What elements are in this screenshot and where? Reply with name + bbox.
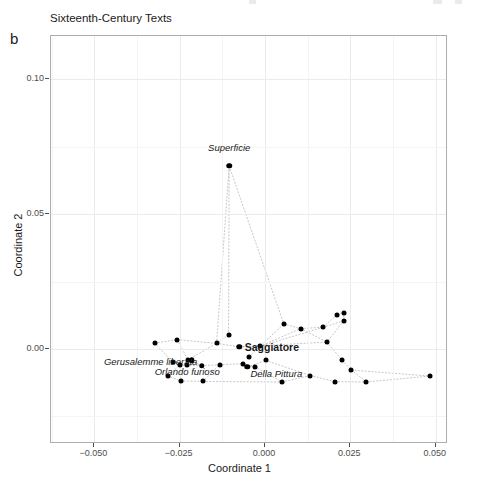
y-tick-label: 0.00 [26,343,44,353]
network-edge [229,166,284,324]
data-point-labeled [245,364,251,370]
data-point [341,318,346,323]
x-gridline-major-3 [350,36,351,442]
y-gridline-minor-0 [51,416,446,417]
network-edge [310,376,335,382]
x-gridline-minor-0 [52,36,53,442]
network-edge [366,376,429,382]
y-gridline-major-1 [51,214,446,215]
network-edge [351,370,430,376]
x-gridline-minor-2 [222,36,223,442]
plot-panel: SuperficieSaggiatoreDella PitturaGerusal… [50,35,447,443]
point-label: Saggiatore [245,341,299,353]
x-axis-title: Coordinate 1 [0,462,479,474]
x-tick-mark [349,443,350,447]
data-point [280,379,285,384]
point-label: Superficie [208,141,250,152]
data-point [427,374,432,379]
x-tick-label: 0.000 [253,448,276,458]
data-point [321,325,326,330]
point-label: Della Pittura [250,368,302,379]
x-tick-mark [264,443,265,447]
network-edge [301,329,327,342]
network-edge [229,166,230,335]
y-gridline-minor-1 [51,282,446,283]
data-point-labeled [226,163,232,169]
x-tick-label: 0.050 [423,448,446,458]
x-gridline-major-4 [436,36,437,442]
data-point [349,368,354,373]
data-point [263,358,268,363]
y-tick-label: 0.05 [26,208,44,218]
x-tick-label: −0.050 [79,448,107,458]
x-tick-mark [435,443,436,447]
y-tick-mark [45,213,49,214]
y-axis-title: Coordinate 2 [12,145,24,345]
x-tick-mark [93,443,94,447]
data-point [226,332,231,337]
x-tick-label: 0.025 [338,448,361,458]
y-gridline-major-2 [51,79,446,80]
data-point [335,312,340,317]
data-point [298,326,303,331]
data-point [324,340,329,345]
data-point [281,322,286,327]
network-edge [327,321,344,342]
data-point [178,378,183,383]
plot-title: Sixteenth-Century Texts [50,12,172,24]
x-gridline-minor-3 [308,36,309,442]
data-point [340,358,345,363]
data-point [175,337,180,342]
y-tick-mark [45,348,49,349]
data-point-labeled [237,344,243,350]
figure-root: b Sixteenth-Century Texts SuperficieSagg… [0,0,479,489]
network-edge [203,381,282,382]
data-point [364,379,369,384]
data-point [246,354,251,359]
point-label: Orlando furioso [155,366,220,377]
x-gridline-minor-4 [393,36,394,442]
data-point [152,341,157,346]
data-point [341,310,346,315]
y-tick-mark [45,78,49,79]
y-tick-label: 0.10 [26,73,44,83]
data-point [308,373,313,378]
network-edge [177,340,216,344]
x-gridline-major-0 [94,36,95,442]
top-bleed-artifact-2 [433,0,442,4]
data-point [333,379,338,384]
x-tick-mark [179,443,180,447]
network-edges [51,36,447,443]
x-tick-label: −0.025 [165,448,193,458]
data-point [214,341,219,346]
top-bleed-artifact-3 [455,0,462,4]
x-gridline-minor-1 [137,36,138,442]
top-bleed-artifact-1 [249,0,256,4]
x-gridline-major-2 [265,36,266,442]
data-point [200,379,205,384]
